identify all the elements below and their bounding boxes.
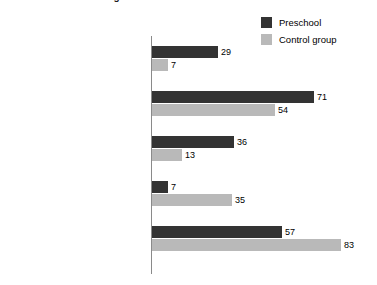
bar-preschool	[152, 136, 234, 148]
chart-title: Life outcomes at age 27	[22, 0, 140, 2]
bar-value-control-group: 7	[168, 59, 176, 71]
bar-value-preschool: 71	[314, 91, 327, 103]
bar-control-group	[152, 239, 341, 251]
legend-label-preschool: Preschool	[279, 17, 321, 28]
bar-preschool	[152, 181, 168, 193]
bar-control-group	[152, 194, 232, 206]
legend-item-preschool: Preschool	[261, 14, 373, 31]
bar-control-group	[152, 59, 168, 71]
bar-preschool	[152, 226, 282, 238]
bar-value-preschool: 7	[168, 181, 176, 193]
bar-preschool	[152, 46, 218, 58]
bar-preschool	[152, 91, 314, 103]
bar-value-control-group: 54	[275, 104, 288, 116]
bar-value-preschool: 29	[218, 46, 231, 58]
bar-value-control-group: 83	[341, 239, 354, 251]
bar-value-preschool: 36	[234, 136, 247, 148]
bar-value-preschool: 57	[282, 226, 295, 238]
bar-value-control-group: 13	[182, 149, 195, 161]
grouped-bar-chart: Life outcomes at age 27 Preschool Contro…	[0, 0, 377, 285]
bar-value-control-group: 35	[232, 194, 245, 206]
bar-control-group	[152, 104, 275, 116]
plot-area: Earning >$2,000 each month 29 7 Graduate…	[151, 36, 377, 274]
legend-swatch-preschool	[261, 17, 272, 28]
bar-control-group	[152, 149, 182, 161]
